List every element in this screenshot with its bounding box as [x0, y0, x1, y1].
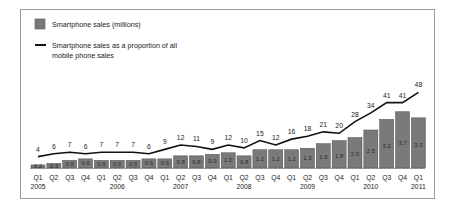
x-tick-quarter: Q1 [414, 174, 423, 182]
line-value-label: 48 [415, 81, 423, 88]
line-value-label: 41 [383, 92, 391, 99]
line-value-label: 6 [84, 143, 88, 150]
line-value-label: 28 [351, 111, 359, 118]
bar-value-label: 0.8 [240, 159, 249, 165]
line-value-label: 15 [256, 130, 264, 137]
x-tick-quarter: Q4 [208, 174, 217, 182]
x-tick-quarter: Q1 [33, 174, 42, 182]
x-tick-year: 2005 [30, 183, 45, 190]
line-value-label: 6 [52, 143, 56, 150]
bar-value-label: 0.8 [176, 159, 185, 165]
bar-value-label: 0.9 [208, 158, 217, 164]
line-value-label: 12 [177, 134, 185, 141]
line-value-label: 4 [36, 146, 40, 153]
x-tick-quarter: Q3 [255, 174, 264, 182]
bar-value-label: 3.3 [414, 142, 423, 148]
x-tick-quarter: Q4 [398, 174, 407, 182]
x-tick-quarter: Q3 [65, 174, 74, 182]
x-tick-year: 2008 [236, 183, 251, 190]
bar-value-label: 0.6 [145, 160, 154, 166]
bar-value-label: 2.0 [351, 151, 360, 157]
legend-line-label-1: Smartphone sales as a proportion of all [52, 41, 177, 50]
x-tick-year: 2010 [363, 183, 378, 190]
legend-bar-swatch [35, 19, 45, 29]
combo-chart: Smartphone sales (millions) Smartphone s… [0, 0, 453, 210]
bar-value-label: 0.3 [50, 163, 59, 169]
line-value-label: 10 [240, 137, 248, 144]
bar-value-label: 1.2 [272, 156, 281, 162]
x-axis-ticks: Q1Q2Q3Q4Q1Q2Q3Q4Q1Q2Q3Q4Q1Q2Q3Q4Q1Q2Q3Q4… [30, 174, 425, 190]
x-tick-quarter: Q3 [192, 174, 201, 182]
line-value-label: 16 [288, 128, 296, 135]
x-tick-quarter: Q2 [240, 174, 249, 182]
x-tick-quarter: Q2 [303, 174, 312, 182]
x-tick-quarter: Q4 [81, 174, 90, 182]
x-tick-quarter: Q1 [97, 174, 106, 182]
line-value-label: 9 [163, 138, 167, 145]
bar-value-label: 0.8 [192, 159, 201, 165]
legend-line-label-2: mobile phone sales [52, 51, 114, 60]
x-tick-quarter: Q2 [49, 174, 58, 182]
x-tick-quarter: Q4 [144, 174, 153, 182]
line-value-label: 41 [399, 92, 407, 99]
x-tick-quarter: Q1 [160, 174, 169, 182]
legend-bar-label: Smartphone sales (millions) [52, 20, 141, 29]
bar-value-label: 0.6 [81, 160, 90, 166]
bar-value-label: 0.6 [161, 160, 170, 166]
bar-value-label: 0.5 [66, 161, 75, 167]
line-value-label: 20 [335, 122, 343, 129]
x-tick-quarter: Q3 [382, 174, 391, 182]
bar-value-label: 3.7 [398, 140, 407, 146]
line-value-label: 6 [147, 143, 151, 150]
x-tick-quarter: Q4 [271, 174, 280, 182]
line-value-label: 11 [193, 135, 200, 142]
line-value-label: 18 [304, 125, 312, 132]
bar-value-label: 1.6 [319, 154, 328, 160]
x-tick-quarter: Q2 [113, 174, 122, 182]
line-value-label: 9 [210, 138, 214, 145]
line-value-label: 7 [100, 141, 104, 148]
bar-value-label: 1.8 [335, 153, 344, 159]
line-value-label: 12 [272, 134, 280, 141]
line-value-label: 12 [224, 134, 232, 141]
bar-value-label: 2.5 [367, 148, 376, 154]
bar-value-label: 0.5 [129, 161, 138, 167]
bar-value-label: 0.5 [113, 161, 122, 167]
x-tick-quarter: Q1 [224, 174, 233, 182]
line-value-label: 21 [320, 121, 328, 128]
legend: Smartphone sales (millions) Smartphone s… [35, 19, 177, 60]
x-tick-quarter: Q2 [366, 174, 375, 182]
line-value-label: 7 [131, 141, 135, 148]
x-tick-quarter: Q4 [335, 174, 344, 182]
x-tick-year: 2007 [173, 183, 188, 190]
x-tick-quarter: Q3 [129, 174, 138, 182]
x-tick-quarter: Q1 [350, 174, 359, 182]
bar-value-label: 1.3 [303, 155, 312, 161]
bar-value-label: 3.2 [383, 143, 392, 149]
x-tick-quarter: Q3 [319, 174, 328, 182]
line-value-label: 7 [115, 141, 119, 148]
x-tick-year: 2011 [411, 183, 426, 190]
bar-value-label: 0.5 [97, 161, 106, 167]
bar-value-label: 1.2 [287, 156, 296, 162]
x-tick-quarter: Q2 [176, 174, 185, 182]
x-tick-year: 2006 [110, 183, 125, 190]
x-tick-year: 2009 [300, 183, 315, 190]
x-tick-quarter: Q1 [287, 174, 296, 182]
line-value-label: 34 [367, 102, 375, 109]
bar-value-label: 1.2 [256, 156, 265, 162]
bar-value-label: 1.0 [224, 157, 233, 163]
line-value-label: 7 [68, 141, 72, 148]
